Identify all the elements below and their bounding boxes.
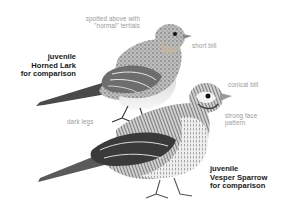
annotation-line: pattern (225, 119, 257, 126)
horned-lark-title: juvenile Horned Lark for comparison (4, 53, 76, 79)
title-line: for comparison (4, 70, 76, 79)
annotation-dark-legs: dark legs (67, 118, 93, 125)
title-line: for comparison (210, 182, 267, 191)
annotation-line: "normal" tertials (62, 22, 140, 29)
annotation-short-bill: short bill (192, 42, 216, 49)
annotation-conical-bill: conical bill (228, 81, 258, 88)
annotation-line: strong face (225, 112, 257, 119)
vesper-sparrow-title: juvenile Vesper Sparrow for comparison (210, 165, 267, 191)
annotation-strong-face-pattern: strong face pattern (225, 112, 257, 126)
annotation-spotted-above: spotted above with "normal" tertials (62, 15, 140, 29)
annotation-line: spotted above with (62, 15, 140, 22)
